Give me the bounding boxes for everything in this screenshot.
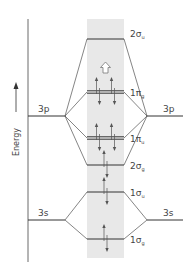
mo-label: 2σg [130, 161, 145, 173]
energy-arrow-icon [14, 82, 19, 112]
highlight-band [87, 19, 124, 258]
mo-label: 1σu [130, 188, 145, 199]
mo-label: 1πu [130, 134, 144, 145]
mo-label: 2σu [130, 29, 145, 40]
atomic-label-left: 3s [38, 208, 49, 218]
atomic-label-left: 3p [38, 104, 50, 114]
atomic-label-right: 3p [163, 104, 175, 114]
mo-diagram: Energy 3p3s3p3s2σu1πg1πu2σg1σu1σg [0, 0, 193, 273]
atomic-label-right: 3s [163, 208, 174, 218]
mo-label: 1πg [130, 88, 144, 100]
energy-axis-label: Energy [12, 128, 21, 156]
mo-label: 1σg [130, 235, 145, 247]
